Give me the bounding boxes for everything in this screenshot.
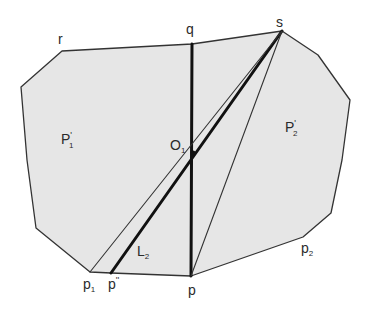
label-s: s — [276, 14, 283, 30]
label-p: p — [188, 282, 196, 298]
diagram-canvas: r q s O1 P'1 P'2 L2 p1 p'' p p2 — [0, 0, 367, 309]
points-group — [191, 151, 196, 156]
polygon-partition-diagram: r q s O1 P'1 P'2 L2 p1 p'' p p2 — [0, 0, 367, 309]
point-O1 — [191, 151, 196, 156]
label-p-double-prime: p'' — [108, 275, 120, 292]
label-q: q — [186, 21, 194, 37]
label-p2: p2 — [301, 240, 314, 258]
label-p1: p1 — [83, 276, 96, 294]
label-r: r — [58, 31, 63, 47]
